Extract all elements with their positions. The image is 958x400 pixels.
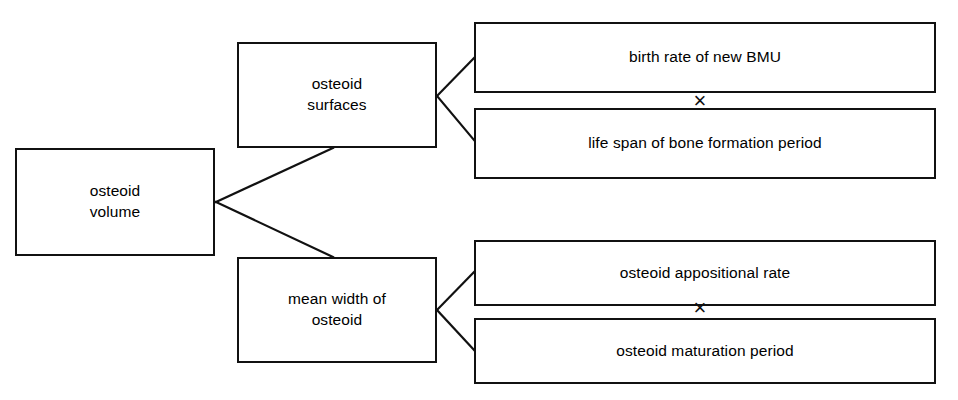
diagram-canvas: osteoid volume osteoid surfaces mean wid… (0, 0, 958, 400)
connector-root-to-upper-branch (216, 148, 333, 202)
multiplication-operator-icon-upper: × (676, 88, 724, 114)
connector-lower-branch-to-leaf-1 (437, 272, 474, 310)
node-birth-rate-of-new-bmu-label: birth rate of new BMU (621, 47, 789, 68)
multiplication-symbol: × (694, 297, 707, 319)
connector-lower-branch-to-leaf-2 (437, 310, 474, 350)
multiplication-symbol: × (694, 90, 707, 112)
connector-upper-branch-to-leaf-1 (437, 58, 474, 96)
connector-upper-branch-to-leaf-2 (437, 96, 474, 140)
node-osteoid-surfaces: osteoid surfaces (237, 42, 437, 148)
node-life-span-of-bone-formation-period: life span of bone formation period (474, 108, 936, 179)
node-osteoid-volume-label: osteoid volume (82, 181, 149, 223)
node-osteoid-appositional-rate-label: osteoid appositional rate (612, 263, 799, 284)
node-mean-width-of-osteoid-label: mean width of osteoid (280, 289, 394, 331)
node-osteoid-volume: osteoid volume (15, 148, 215, 256)
node-osteoid-maturation-period-label: osteoid maturation period (608, 341, 801, 362)
multiplication-operator-icon-lower: × (676, 293, 724, 323)
node-osteoid-surfaces-label: osteoid surfaces (299, 74, 374, 116)
node-birth-rate-of-new-bmu: birth rate of new BMU (474, 22, 936, 93)
node-life-span-of-bone-formation-period-label: life span of bone formation period (580, 133, 829, 154)
node-mean-width-of-osteoid: mean width of osteoid (237, 257, 437, 363)
node-osteoid-maturation-period: osteoid maturation period (474, 318, 936, 384)
connector-root-to-lower-branch (216, 202, 333, 257)
